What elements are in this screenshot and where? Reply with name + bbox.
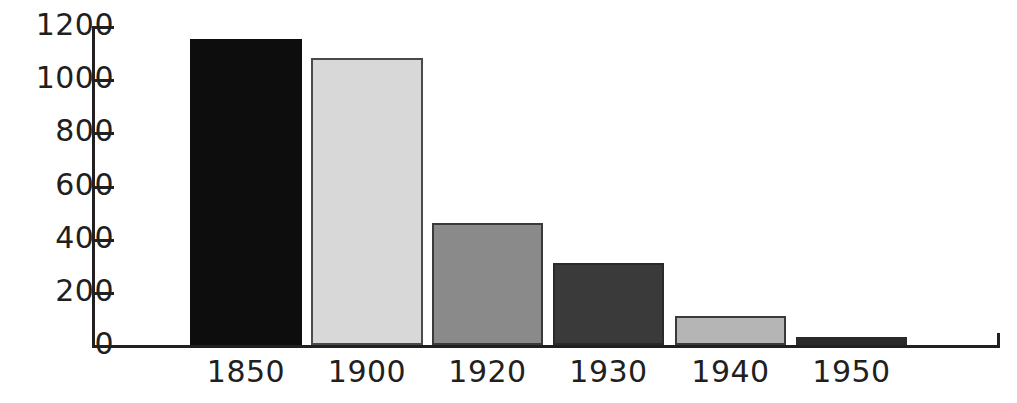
y-tick-mark [92,132,114,135]
bar-1850[interactable] [190,39,302,345]
bar-1950[interactable] [796,337,907,345]
bar-1920[interactable] [432,223,543,345]
y-tick-label: 0 [28,329,114,359]
y-tick-label: 200 [28,276,114,306]
y-tick-mark [92,239,114,242]
bar-1900[interactable] [311,58,423,345]
bar-1940[interactable] [675,316,786,345]
x-tick-label-1920: 1920 [432,352,543,392]
x-tick-label-1940: 1940 [675,352,786,392]
x-axis-line [92,345,1000,348]
x-tick-label-1930: 1930 [553,352,664,392]
y-tick-label: 800 [28,116,114,146]
y-tick-label: 600 [28,170,114,200]
x-axis-endcap-tick [997,333,1000,347]
y-tick-label: 1000 [28,63,114,93]
y-tick-mark [92,186,114,189]
x-tick-label-1900: 1900 [311,352,423,392]
y-tick-mark [92,292,114,295]
x-tick-label-1850: 1850 [190,352,302,392]
plot-area: 120010008006004002000 185019001920193019… [0,0,1017,403]
bar-chart: 120010008006004002000 185019001920193019… [0,0,1017,403]
y-tick-label: 400 [28,223,114,253]
y-tick-mark [92,26,114,29]
y-tick-label: 1200 [28,10,114,40]
x-tick-label-1950: 1950 [796,352,907,392]
bar-1930[interactable] [553,263,664,345]
y-tick-mark [92,79,114,82]
